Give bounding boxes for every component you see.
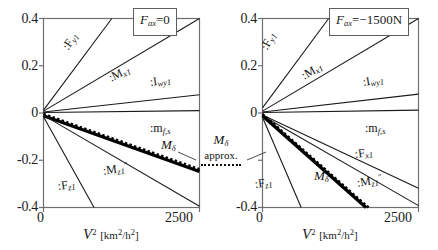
panel-title-symbol: F xyxy=(336,12,344,27)
panel-title-left: Fax=0 xyxy=(133,8,177,36)
curve-m-delta xyxy=(263,116,367,208)
figure-root: 0.4 0.2 0 -0.2 -0.4 0 2500 Fax=0 xyxy=(0,0,438,250)
panel-title-value: =−1500N xyxy=(352,12,402,27)
curve-label-mz1: :Mz1″ xyxy=(102,159,129,180)
curve-label-mfs: :mf,s xyxy=(150,122,170,137)
panel-title-subscript: ax xyxy=(148,18,156,28)
chart-panel-left: 0.4 0.2 0 -0.2 -0.4 0 2500 Fax=0 xyxy=(0,0,219,250)
curve-label-mdelta: Mδ xyxy=(161,139,176,154)
curve-f-y1 xyxy=(44,19,112,111)
annotation-symbol: Mδ xyxy=(195,134,247,149)
curve-label-mz1: :Mz1″ xyxy=(356,171,383,192)
curve-m-z1 xyxy=(263,116,419,206)
curve-m-delta-approx xyxy=(263,114,369,208)
panel-title-right: Fax=−1500N xyxy=(329,8,409,36)
curve-m-f-s xyxy=(263,110,419,112)
plot-area-left xyxy=(0,0,219,250)
x-axis-title: V2 [km2/h2] xyxy=(83,225,139,243)
annotation-text: approx. xyxy=(195,149,247,161)
curve-label-mfs: :mf,s xyxy=(365,122,385,137)
curve-label-fx1: :Fx1 xyxy=(354,146,374,163)
curve-group-right xyxy=(263,19,419,208)
plot-frame xyxy=(263,19,419,208)
annotation-mdelta-approx: Mδ approx. xyxy=(195,134,247,166)
curve-label-mdelta: Mδ xyxy=(314,170,329,185)
x-axis-title: V2 [km2/h2] xyxy=(302,225,358,243)
panel-title-value: =0 xyxy=(156,12,170,27)
curve-label-fz1: :Fz1 xyxy=(57,178,76,195)
annotation-dotted-line-sample xyxy=(201,164,241,166)
curve-f-x1 xyxy=(263,115,419,188)
plot-area-right xyxy=(219,0,438,250)
panel-title-symbol: F xyxy=(140,12,148,27)
chart-panel-right: 0.4 0.2 0 -0.4 0 2500 Fax=−1500N :Fy1 :M… xyxy=(219,0,438,250)
curve-m-f-s xyxy=(44,111,200,113)
curve-label-fz1: :Fz1 xyxy=(254,176,273,193)
panel-title-subscript: ax xyxy=(344,18,352,28)
